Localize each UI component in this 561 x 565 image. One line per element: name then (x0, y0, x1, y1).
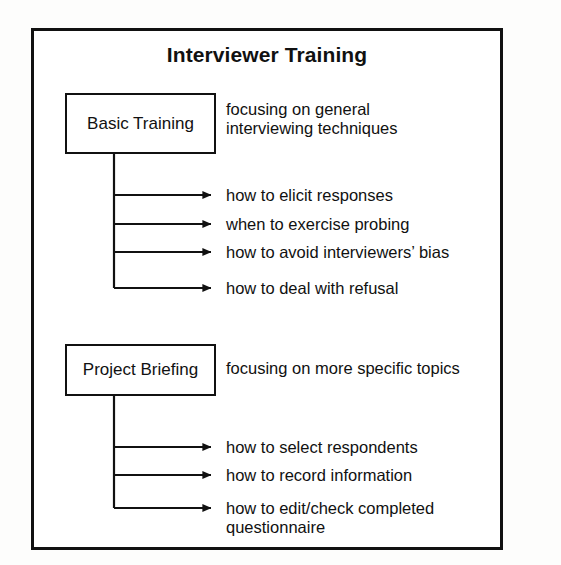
branch-label-select-respondents: how to select respondents (226, 438, 418, 457)
branch-label-elicit-responses: how to elicit responses (226, 186, 393, 205)
branch-label-edit-check-questionnaire: how to edit/check completed questionnair… (226, 499, 434, 537)
page-background: Interviewer Training Basic Training focu… (0, 0, 561, 565)
branch-label-exercise-probing: when to exercise probing (226, 215, 409, 234)
caption-basic-training: focusing on general interviewing techniq… (226, 100, 398, 138)
diagram-title: Interviewer Training (31, 43, 503, 67)
branch-label-deal-with-refusal: how to deal with refusal (226, 279, 398, 298)
caption-project-briefing: focusing on more specific topics (226, 359, 460, 378)
node-label-project-briefing: Project Briefing (83, 360, 198, 380)
node-label-basic-training: Basic Training (87, 114, 194, 134)
node-box-project-briefing: Project Briefing (65, 344, 216, 396)
node-box-basic-training: Basic Training (65, 93, 216, 154)
branch-label-avoid-bias: how to avoid interviewers’ bias (226, 243, 449, 262)
branch-label-record-information: how to record information (226, 466, 412, 485)
